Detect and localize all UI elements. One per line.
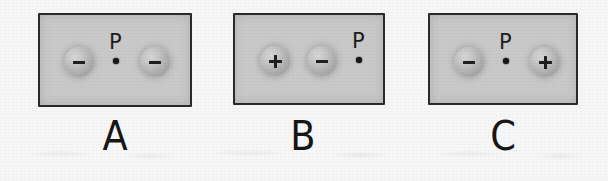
plus-sign-icon xyxy=(539,56,552,69)
charge-positive-left xyxy=(260,46,290,76)
field-point-label: P xyxy=(352,31,365,52)
panel-c: P xyxy=(428,13,578,105)
panel-a: P xyxy=(38,13,192,107)
charge-box-b: P xyxy=(233,13,385,105)
minus-sign-icon xyxy=(149,56,162,69)
plus-sign-icon xyxy=(269,55,282,68)
charge-box-a: P xyxy=(38,13,192,107)
minus-sign-icon xyxy=(463,56,476,69)
charge-box-c: P xyxy=(428,13,578,105)
field-point-dot xyxy=(503,58,509,64)
charge-negative-left xyxy=(454,47,484,77)
panel-label-a: A xyxy=(97,116,134,156)
panel-label-c: C xyxy=(485,116,522,156)
field-point-label: P xyxy=(499,32,512,53)
charge-positive-right xyxy=(530,47,560,77)
charge-negative-right xyxy=(140,47,170,77)
minus-sign-icon xyxy=(316,55,329,68)
field-point-label: P xyxy=(109,32,122,53)
panel-label-b: B xyxy=(285,116,322,156)
minus-sign-icon xyxy=(73,56,86,69)
field-point-dot xyxy=(356,57,362,63)
panel-b: P xyxy=(233,13,385,105)
field-point-dot xyxy=(113,58,119,64)
charge-negative-middle xyxy=(307,46,337,76)
charge-negative-left xyxy=(64,47,94,77)
